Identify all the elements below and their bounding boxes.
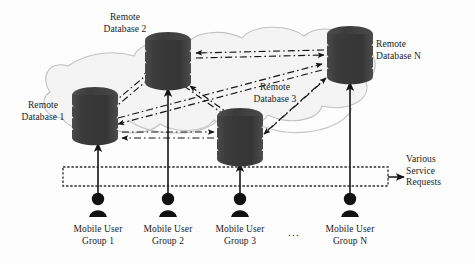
user-icon-group2 [159, 193, 177, 217]
database-label-db1-line2: Database 1 [8, 112, 78, 124]
database-db1 [72, 87, 118, 145]
user-icon-group3 [231, 193, 249, 217]
database-label-db2-line2: Database 2 [82, 24, 168, 36]
database-label-dbn-line2: Database N [376, 51, 464, 63]
database-db2 [145, 32, 191, 90]
service-requests-label: Various Service Requests [406, 154, 470, 189]
user-group-label-group1-line1: Mobile User [60, 224, 136, 236]
database-label-db2: Remote Database 2 [82, 12, 168, 35]
user-icon-group1 [89, 193, 107, 217]
database-label-db3: Remote Database 3 [232, 82, 318, 105]
database-label-dbn: Remote Database N [376, 39, 464, 62]
network-architecture-diagram: Remote Database 2 Remote Database N Remo… [0, 0, 475, 264]
user-groups-ellipsis: ... [288, 226, 300, 238]
user-group-label-groupn-line2: Group N [312, 236, 388, 248]
database-label-dbn-line1: Remote [376, 39, 464, 51]
database-label-db3-line1: Remote [232, 82, 318, 94]
database-label-db1-line1: Remote [8, 100, 78, 112]
database-label-db1: Remote Database 1 [8, 100, 78, 123]
user-icon-groupn [341, 193, 359, 217]
service-requests-line1: Various [406, 154, 470, 166]
service-requests-line2: Service [406, 166, 470, 178]
user-group-label-groupn-line1: Mobile User [312, 224, 388, 236]
user-group-label-groupn: Mobile User Group N [312, 224, 388, 247]
database-dbn [327, 26, 373, 84]
database-label-db3-line2: Database 3 [232, 94, 318, 106]
user-group-label-group2: Mobile User Group 2 [130, 224, 206, 247]
user-group-label-group1-line2: Group 1 [60, 236, 136, 248]
service-requests-line3: Requests [406, 177, 470, 189]
user-group-label-group3: Mobile User Group 3 [202, 224, 278, 247]
database-db3 [217, 108, 263, 166]
user-group-label-group2-line2: Group 2 [130, 236, 206, 248]
user-group-label-group3-line1: Mobile User [202, 224, 278, 236]
user-group-label-group2-line1: Mobile User [130, 224, 206, 236]
user-group-label-group1: Mobile User Group 1 [60, 224, 136, 247]
service-request-bus [63, 167, 404, 186]
user-group-label-group3-line2: Group 3 [202, 236, 278, 248]
database-label-db2-line1: Remote [82, 12, 168, 24]
